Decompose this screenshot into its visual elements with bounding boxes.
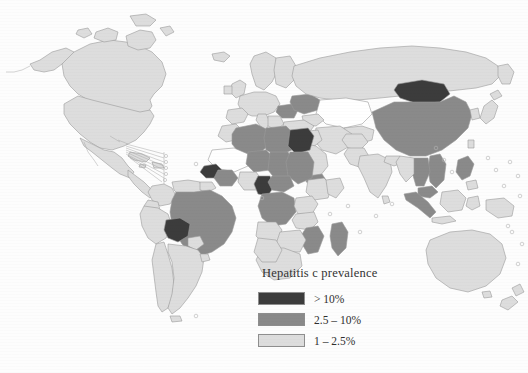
region-north-america bbox=[6, 14, 174, 198]
region-mongolia bbox=[394, 80, 450, 104]
legend-row-low: 1 – 2.5% bbox=[258, 332, 438, 349]
region-iceland bbox=[212, 52, 230, 62]
region-new-zealand-south bbox=[500, 296, 518, 310]
region-thailand bbox=[412, 158, 430, 186]
region-sulawesi bbox=[466, 196, 480, 210]
region-iberia bbox=[226, 108, 248, 124]
region-korea bbox=[470, 108, 480, 120]
region-tasmania bbox=[482, 291, 492, 298]
region-falkland-islands bbox=[194, 314, 198, 318]
region-arctic-islet-b bbox=[160, 26, 174, 36]
region-tierra-del-fuego bbox=[170, 316, 182, 322]
legend-row-mid: 2.5 – 10% bbox=[258, 311, 438, 328]
region-baffin-island bbox=[126, 30, 156, 50]
region-madagascar bbox=[330, 222, 348, 256]
region-kamchatka bbox=[498, 64, 514, 84]
region-philippines bbox=[456, 156, 474, 180]
region-victoria-island bbox=[94, 28, 118, 42]
region-ellesmere-island bbox=[130, 14, 156, 26]
region-australia bbox=[426, 230, 506, 292]
region-borneo bbox=[440, 190, 466, 212]
legend-swatch-high bbox=[258, 292, 305, 305]
legend-swatch-mid bbox=[258, 313, 305, 326]
region-egypt bbox=[288, 128, 314, 154]
legend-row-high: > 10% bbox=[258, 290, 438, 307]
region-papua-new-guinea bbox=[486, 198, 514, 218]
region-china bbox=[372, 96, 472, 156]
region-new-zealand-north bbox=[512, 284, 524, 296]
region-aleutians bbox=[6, 66, 30, 72]
legend-title: Hepatitis c prevalence bbox=[262, 266, 438, 281]
region-arctic-islet-a bbox=[76, 28, 92, 38]
region-taiwan bbox=[468, 140, 474, 148]
region-ivory-coast-ghana bbox=[214, 170, 238, 186]
region-java bbox=[432, 216, 456, 224]
region-philippines-south bbox=[466, 180, 478, 190]
legend-label-high: > 10% bbox=[314, 293, 344, 305]
region-kazakhstan bbox=[316, 98, 372, 128]
region-asia bbox=[358, 80, 514, 224]
world-choropleth-map: Hepatitis c prevalence > 10% 2.5 – 10% 1… bbox=[0, 0, 528, 373]
legend-label-mid: 2.5 – 10% bbox=[314, 314, 361, 326]
region-myanmar bbox=[396, 156, 414, 182]
region-uruguay bbox=[200, 254, 210, 262]
region-central-african-republic bbox=[268, 176, 294, 192]
region-vietnam bbox=[428, 154, 446, 188]
legend-swatch-low bbox=[258, 334, 305, 347]
region-sri-lanka bbox=[382, 196, 390, 204]
region-south-america bbox=[140, 180, 236, 322]
map-legend: Hepatitis c prevalence > 10% 2.5 – 10% 1… bbox=[258, 266, 438, 353]
region-ireland bbox=[224, 86, 232, 94]
region-scandinavia bbox=[250, 52, 278, 90]
legend-label-low: 1 – 2.5% bbox=[314, 335, 355, 347]
region-hokkaido bbox=[490, 90, 502, 100]
region-japan bbox=[480, 100, 498, 124]
